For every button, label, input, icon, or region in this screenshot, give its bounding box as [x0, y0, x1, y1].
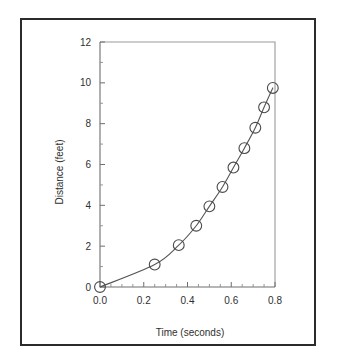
x-tick-label: 0.2: [137, 295, 151, 306]
y-tick-label: 8: [85, 118, 91, 129]
x-tick-label: 0.8: [268, 295, 282, 306]
x-axis-ticks: [100, 282, 275, 287]
y-tick-label: 10: [80, 77, 92, 88]
x-axis-tick-labels: 0.00.20.40.60.8: [93, 295, 282, 306]
y-axis-tick-labels: 024681012: [80, 37, 92, 293]
y-tick-label: 12: [80, 37, 92, 48]
y-tick-label: 6: [85, 159, 91, 170]
x-tick-label: 0.4: [181, 295, 195, 306]
fitted-curve: [100, 88, 273, 287]
y-tick-label: 0: [85, 282, 91, 293]
x-axis-title: Time (seconds): [156, 327, 225, 338]
plot-frame: [100, 42, 275, 287]
plot-frame-lines: [100, 42, 275, 287]
x-tick-label: 0.0: [93, 295, 107, 306]
y-axis-title: Distance (feet): [54, 139, 65, 204]
figure: 024681012 0.00.20.40.60.8 Time (seconds)…: [0, 0, 337, 364]
data-point-markers: [95, 83, 279, 293]
y-axis-ticks: [100, 42, 105, 287]
distance-vs-time-chart: 024681012 0.00.20.40.60.8 Time (seconds)…: [0, 0, 337, 364]
x-tick-label: 0.6: [224, 295, 238, 306]
y-tick-label: 4: [85, 200, 91, 211]
y-tick-label: 2: [85, 241, 91, 252]
